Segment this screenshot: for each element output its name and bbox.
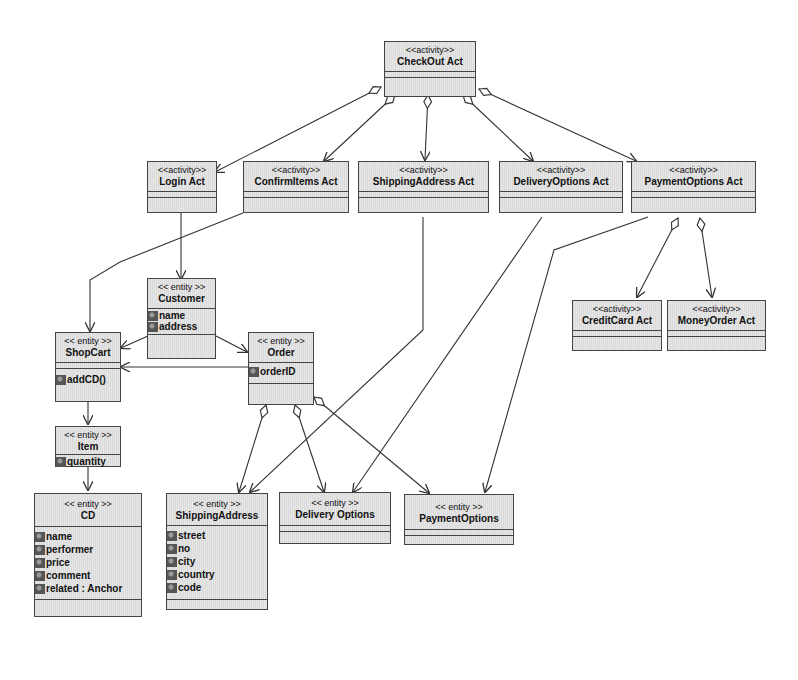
class-name: ConfirmItems Act (246, 176, 346, 188)
stereotype-label: <<activity>> (361, 164, 486, 176)
edge-payact-credit (637, 218, 678, 297)
class-paymentoptions-act[interactable]: <<activity>> PaymentOptions Act (631, 161, 756, 213)
class-moneyorder-act[interactable]: <<activity>> MoneyOrder Act (667, 300, 766, 351)
stereotype-label: << entity >> (37, 498, 139, 510)
edge-order-delivopt (295, 405, 324, 492)
class-paymentoptions[interactable]: << entity >> PaymentOptions (404, 494, 514, 545)
operation-addcd: addCD() (56, 374, 120, 385)
class-name: Item (58, 441, 118, 453)
uml-class-diagram: <<activity>> CheckOut Act <<activity>> L… (0, 0, 798, 680)
attribute-orderid: orderID (249, 366, 313, 377)
class-header: <<activity>> ShippingAddress Act (359, 162, 488, 191)
class-header: << entity >> Customer (148, 279, 215, 308)
class-item[interactable]: << entity >> Item quantity (55, 426, 121, 467)
class-name: CreditCard Act (575, 315, 659, 327)
class-name: DeliveryOptions Act (502, 176, 620, 188)
attribute-city: city (167, 555, 267, 568)
attribute-icon (249, 367, 259, 377)
class-header: <<activity>> DeliveryOptions Act (500, 162, 622, 191)
attribute-name: name (148, 310, 215, 321)
attribute-icon (167, 557, 177, 567)
edge-customer-order (216, 336, 247, 352)
attribute-name: name (35, 530, 141, 543)
class-deliveryoptions-act[interactable]: <<activity>> DeliveryOptions Act (499, 161, 623, 213)
class-name: Login Act (150, 176, 214, 188)
class-header: <<activity>> Login Act (148, 162, 216, 191)
class-shippingaddress-act[interactable]: <<activity>> ShippingAddress Act (358, 161, 489, 213)
class-header: <<activity>> PaymentOptions Act (632, 162, 755, 191)
attribute-icon (56, 457, 66, 467)
operations-compartment (35, 599, 141, 605)
class-name: ShippingAddress (169, 510, 265, 522)
class-header: << entity >> Item (56, 427, 120, 454)
edge-payact-payopt (485, 217, 648, 492)
class-header: <<activity>> MoneyOrder Act (668, 301, 765, 330)
attributes-compartment: name performer price comment related : A… (35, 526, 141, 599)
attribute-icon (35, 532, 45, 542)
stereotype-label: << entity >> (282, 497, 388, 509)
class-header: <<activity>> CheckOut Act (385, 42, 475, 71)
attribute-icon (35, 545, 45, 555)
class-header: <<activity>> ConfirmItems Act (244, 162, 348, 191)
class-cd[interactable]: << entity >> CD name performer price com… (34, 493, 142, 617)
attribute-icon (35, 584, 45, 594)
class-confirmitems-act[interactable]: <<activity>> ConfirmItems Act (243, 161, 349, 213)
stereotype-label: <<activity>> (387, 44, 473, 56)
class-login-act[interactable]: <<activity>> Login Act (147, 161, 217, 213)
edge-checkout-delivact (463, 95, 533, 161)
stereotype-label: <<activity>> (246, 164, 346, 176)
attribute-no: no (167, 542, 267, 555)
stereotype-label: << entity >> (150, 281, 213, 293)
edge-customer-shopcart (121, 336, 148, 348)
edge-checkout-payact (479, 89, 636, 161)
operations-compartment (500, 197, 622, 203)
class-header: <<activity>> CreditCard Act (573, 301, 661, 330)
operations-compartment (405, 535, 513, 541)
class-header: << entity >> Order (249, 333, 313, 362)
edge-order-shipaddr (239, 405, 266, 492)
attribute-icon (167, 583, 177, 593)
stereotype-label: <<activity>> (634, 164, 753, 176)
attribute-code: code (167, 581, 267, 594)
class-order[interactable]: << entity >> Order orderID (248, 332, 314, 405)
class-name: Customer (150, 293, 213, 305)
class-name: Order (251, 347, 311, 359)
class-header: << entity >> ShippingAddress (167, 494, 267, 525)
stereotype-label: << entity >> (58, 429, 118, 441)
stereotype-label: <<activity>> (502, 164, 620, 176)
class-name: ShopCart (58, 347, 118, 359)
class-name: Delivery Options (282, 509, 388, 521)
edge-order-payopt (314, 397, 429, 493)
attribute-performer: performer (35, 543, 141, 556)
class-name: PaymentOptions (407, 513, 511, 525)
attribute-street: street (167, 529, 267, 542)
class-shopcart[interactable]: << entity >> ShopCart addCD() (55, 332, 121, 402)
attribute-icon (148, 311, 158, 321)
stereotype-label: <<activity>> (670, 303, 763, 315)
attribute-address: address (148, 321, 215, 332)
class-customer[interactable]: << entity >> Customer name address (147, 278, 216, 359)
stereotype-label: << entity >> (251, 335, 311, 347)
operations-compartment (668, 336, 765, 342)
class-header: << entity >> CD (35, 494, 141, 526)
class-header: << entity >> ShopCart (56, 333, 120, 362)
class-creditcard-act[interactable]: <<activity>> CreditCard Act (572, 300, 662, 351)
attributes-compartment: street no city country code (167, 525, 267, 599)
attribute-related: related : Anchor (35, 582, 141, 595)
class-shippingaddress[interactable]: << entity >> ShippingAddress street no c… (166, 493, 268, 610)
attribute-price: price (35, 556, 141, 569)
attribute-icon (35, 571, 45, 581)
class-checkout-act[interactable]: <<activity>> CheckOut Act (384, 41, 476, 97)
attribute-quantity: quantity (56, 456, 120, 467)
class-delivery-options[interactable]: << entity >> Delivery Options (279, 492, 391, 544)
stereotype-label: <<activity>> (150, 164, 214, 176)
attribute-icon (35, 558, 45, 568)
operations-compartment (244, 197, 348, 203)
operations-compartment (148, 197, 216, 203)
attributes-compartment: name address (148, 308, 215, 334)
edge-delivact-delivopt (353, 217, 542, 492)
operations-compartment: addCD() (56, 368, 120, 387)
attribute-icon (148, 322, 158, 332)
edge-checkout-confirm (324, 95, 395, 161)
operations-compartment (573, 336, 661, 342)
